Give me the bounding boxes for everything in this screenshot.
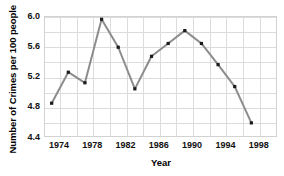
x-axis-title: Year	[44, 157, 278, 169]
y-tick-label-4.8: 4.8	[16, 102, 40, 111]
data-point-1979	[100, 18, 103, 21]
plot-svg	[45, 17, 277, 137]
y-tick-label-6.0: 6.0	[16, 12, 40, 21]
data-line	[52, 19, 252, 123]
data-point-1997	[250, 121, 253, 124]
data-point-1987	[167, 42, 170, 45]
data-point-1985	[150, 55, 153, 58]
data-point-1983	[133, 87, 136, 90]
plot-area	[44, 16, 277, 137]
x-tick-label-1998: 1998	[239, 141, 279, 150]
data-point-1995	[233, 85, 236, 88]
data-point-1991	[200, 42, 203, 45]
y-tick-label-5.2: 5.2	[16, 72, 40, 81]
data-point-1977	[83, 81, 86, 84]
data-point-1993	[216, 63, 219, 66]
line-chart: Number of Crimes per 100 people 4.44.85.…	[0, 0, 284, 176]
vertical-gridlines	[61, 17, 277, 137]
data-point-1981	[117, 46, 120, 49]
data-point-1989	[183, 29, 186, 32]
data-point-1975	[67, 71, 70, 74]
data-point-1973	[50, 102, 53, 105]
y-tick-label-5.6: 5.6	[16, 42, 40, 51]
y-axis-tick-labels: 4.44.85.25.66.0	[12, 0, 40, 176]
y-tick-label-4.4: 4.4	[16, 133, 40, 142]
